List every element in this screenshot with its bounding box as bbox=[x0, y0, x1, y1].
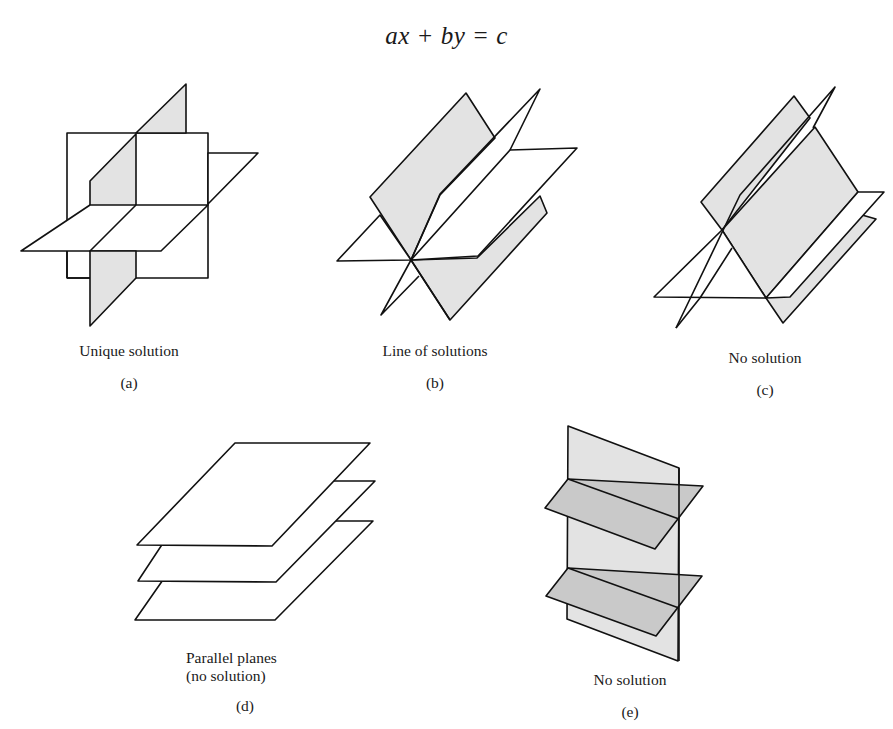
panel-b-sublabel: (b) bbox=[410, 374, 460, 392]
shaded-plane-bottom bbox=[90, 251, 136, 326]
panel-a-unique-solution-diagram bbox=[21, 84, 258, 326]
panel-d-caption-line1: Parallel planes bbox=[186, 649, 306, 667]
panel-e-sublabel: (e) bbox=[605, 703, 655, 721]
panel-c-sublabel: (c) bbox=[740, 381, 790, 399]
panel-c-no-solution-diagram bbox=[654, 87, 884, 328]
panel-e-no-solution-diagram bbox=[545, 426, 703, 661]
panel-e-caption: No solution bbox=[555, 671, 705, 689]
panel-d-caption-line2: (no solution) bbox=[186, 667, 306, 685]
panel-b-caption: Line of solutions bbox=[360, 342, 510, 360]
panel-d-sublabel: (d) bbox=[220, 697, 270, 715]
shaded-plane-top bbox=[136, 84, 186, 133]
panel-c-caption: No solution bbox=[690, 349, 840, 367]
horizontal-plane-right bbox=[208, 153, 258, 204]
tilted-plane-lower bbox=[381, 260, 419, 315]
panel-a-caption: Unique solution bbox=[54, 342, 204, 360]
panel-a-sublabel: (a) bbox=[104, 374, 154, 392]
panel-b-line-of-solutions-diagram bbox=[337, 89, 577, 320]
three-planes-figure: ax + by = c bbox=[0, 0, 893, 729]
panel-d-parallel-planes-diagram bbox=[135, 443, 375, 620]
